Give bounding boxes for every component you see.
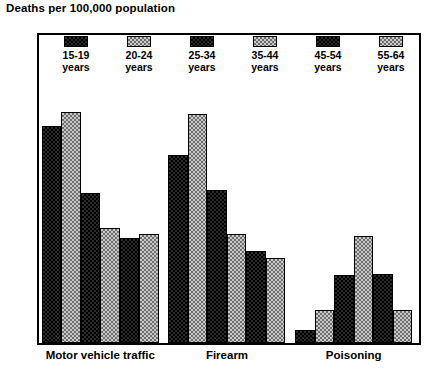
- legend-item: 20-24years: [108, 36, 170, 73]
- legend-item: 45-54years: [297, 36, 359, 73]
- bar: [295, 330, 315, 343]
- x-axis-category-label: Poisoning: [290, 349, 417, 361]
- bar: [139, 234, 159, 343]
- legend-item: 25-34years: [171, 36, 233, 73]
- legend-label-range: 25-34: [171, 50, 233, 62]
- bar: [207, 190, 227, 343]
- legend-swatch: [64, 36, 88, 47]
- bar: [188, 114, 208, 343]
- legend-label-range: 35-44: [234, 50, 296, 62]
- legend-label-unit: years: [234, 62, 296, 74]
- legend-label-range: 55-64: [360, 50, 422, 62]
- x-axis-category-label: Firearm: [164, 349, 291, 361]
- bar-chart: Deaths per 100,000 population 4035302520…: [0, 0, 427, 377]
- bar: [42, 126, 62, 343]
- bar: [100, 228, 120, 343]
- x-axis-category-label: Motor vehicle traffic: [37, 349, 164, 361]
- legend-label-unit: years: [171, 62, 233, 74]
- chart-title: Deaths per 100,000 population: [6, 2, 175, 14]
- bar: [315, 310, 335, 343]
- legend-label-unit: years: [360, 62, 422, 74]
- bar: [227, 234, 247, 343]
- bar: [266, 258, 286, 343]
- legend-item: 15-19years: [45, 36, 107, 73]
- bar: [81, 193, 101, 343]
- bar: [61, 112, 81, 343]
- legend-label-range: 45-54: [297, 50, 359, 62]
- bar: [373, 274, 393, 343]
- legend-item: 55-64years: [360, 36, 422, 73]
- bar: [393, 310, 413, 343]
- legend-swatch: [190, 36, 214, 47]
- legend-swatch: [379, 36, 403, 47]
- legend-label-range: 15-19: [45, 50, 107, 62]
- bar: [120, 238, 140, 343]
- legend-label-unit: years: [297, 62, 359, 74]
- legend-swatch: [253, 36, 277, 47]
- bar: [334, 275, 354, 343]
- legend-swatch: [127, 36, 151, 47]
- legend-label-unit: years: [45, 62, 107, 74]
- bar: [246, 251, 266, 343]
- chart-legend: 15-19years20-24years25-34years35-44years…: [39, 36, 419, 82]
- bar: [168, 155, 188, 343]
- legend-swatch: [316, 36, 340, 47]
- legend-label-unit: years: [108, 62, 170, 74]
- legend-item: 35-44years: [234, 36, 296, 73]
- bar: [354, 236, 374, 343]
- legend-label-range: 20-24: [108, 50, 170, 62]
